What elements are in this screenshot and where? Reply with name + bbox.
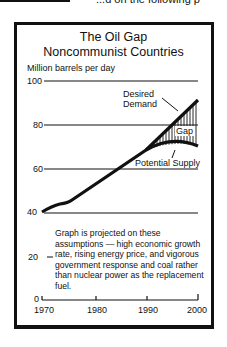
demand-leader bbox=[162, 98, 178, 111]
assumptions-note: Graph is projected on these assumptions … bbox=[55, 228, 205, 292]
label-potential-supply: Potential Supply bbox=[135, 158, 200, 168]
x-axis bbox=[42, 294, 198, 300]
label-demand: Demand bbox=[123, 99, 157, 109]
plot-area bbox=[0, 0, 227, 347]
chart-figure: ...d on the following p The Oil Gap Nonc… bbox=[0, 0, 227, 347]
supply-leader bbox=[172, 150, 175, 158]
label-desired: Desired bbox=[123, 89, 154, 99]
desired-demand-line bbox=[42, 100, 198, 212]
label-gap: Gap bbox=[175, 126, 194, 136]
